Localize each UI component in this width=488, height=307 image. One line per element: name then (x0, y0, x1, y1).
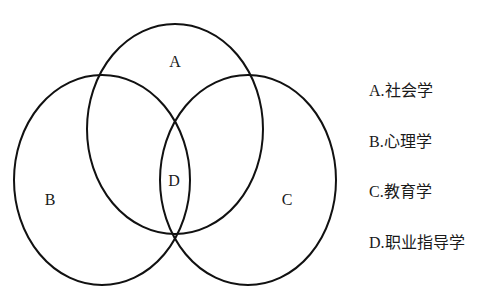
intersection-d-label: D (168, 172, 180, 189)
legend-item-c: C.教育学 (369, 179, 487, 204)
set-a-label: A (169, 53, 181, 70)
set-b-label: B (45, 191, 56, 208)
legend-item-a: A.社会学 (369, 78, 487, 103)
set-b-ellipse (14, 75, 190, 285)
legend: A.社会学 B.心理学 C.教育学 D.职业指导学 (369, 78, 487, 280)
set-c-label: C (282, 191, 293, 208)
set-c-ellipse (160, 75, 336, 285)
legend-item-b: B.心理学 (369, 129, 487, 154)
legend-item-d: D.职业指导学 (369, 230, 487, 255)
